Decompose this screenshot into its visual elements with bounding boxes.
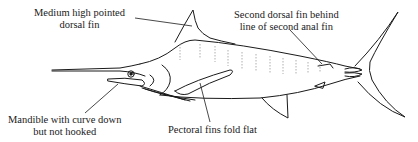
mandible xyxy=(108,78,145,86)
gill-cover xyxy=(160,65,170,95)
caudal-fin xyxy=(355,12,405,117)
label-pectoral-fins: Pectoral fins fold flat xyxy=(168,124,257,136)
caudal-keel xyxy=(345,68,362,73)
label-mandible: Mandible with curve down but not hooked xyxy=(8,114,121,138)
marlin-diagram: Medium high pointed dorsal fin Second do… xyxy=(0,0,418,142)
label-second-dorsal-fin: Second dorsal fin behind line of second … xyxy=(234,9,339,33)
belly-outline xyxy=(160,76,360,99)
bill xyxy=(52,64,140,70)
first-dorsal-fin xyxy=(175,10,235,44)
label-dorsal-fin: Medium high pointed dorsal fin xyxy=(34,7,125,31)
first-anal-fin xyxy=(262,95,288,118)
pectoral-fin xyxy=(175,70,233,95)
second-anal-fin xyxy=(315,82,325,88)
body-stripes xyxy=(180,44,320,74)
